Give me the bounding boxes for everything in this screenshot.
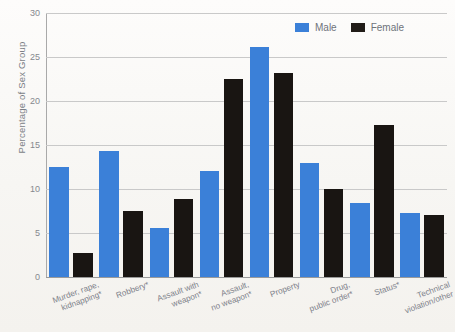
bar-male [49, 167, 69, 277]
bar-group [300, 13, 344, 277]
plot-area: 051015202530 [46, 13, 447, 277]
bar-male [400, 213, 420, 277]
bar-male [350, 203, 370, 277]
bar-female [73, 253, 93, 277]
bar-group [200, 13, 244, 277]
bar-male [250, 47, 270, 277]
y-axis-tick-label: 0 [35, 272, 40, 282]
y-axis-tick-label: 10 [30, 184, 40, 194]
bar-group [49, 13, 93, 277]
bar-group [400, 13, 444, 277]
legend-item-male: Male [295, 22, 337, 33]
chart-figure: Percentage of Sex Group 051015202530 Mal… [0, 0, 455, 332]
bar-female [374, 125, 394, 277]
legend-item-female: Female [351, 22, 404, 33]
y-axis-tick-label: 15 [30, 140, 40, 150]
legend-label-female: Female [371, 22, 404, 33]
legend-swatch-male-icon [295, 23, 309, 32]
bar-group [99, 13, 143, 277]
bar-female [224, 79, 244, 277]
x-axis-baseline: 0 [46, 277, 447, 278]
legend-swatch-female-icon [351, 23, 365, 32]
bar-group [150, 13, 194, 277]
y-axis-title: Percentage of Sex Group [16, 23, 27, 173]
y-axis-tick-label: 20 [30, 96, 40, 106]
bar-female [123, 211, 143, 277]
bar-male [99, 151, 119, 277]
bar-male [200, 171, 220, 277]
bar-female [324, 189, 344, 277]
y-axis-tick-label: 30 [30, 8, 40, 18]
bar-male [150, 228, 170, 277]
y-axis-tick-label: 25 [30, 52, 40, 62]
bar-group [250, 13, 294, 277]
chart-legend: Male Female [295, 22, 404, 33]
bar-group [350, 13, 394, 277]
y-axis-tick-label: 5 [35, 228, 40, 238]
legend-label-male: Male [315, 22, 337, 33]
bar-male [300, 163, 320, 277]
bar-female [424, 215, 444, 277]
bar-female [174, 199, 194, 277]
x-axis-labels: Murder, rape, kidnapping*Robbery*Assault… [46, 280, 447, 332]
bar-female [274, 73, 294, 277]
